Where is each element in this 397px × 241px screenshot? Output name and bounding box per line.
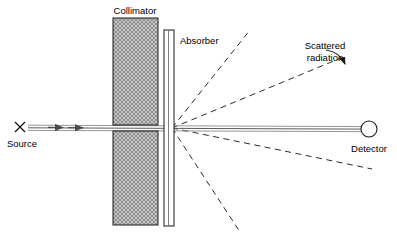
source-label: Source: [7, 138, 37, 149]
diagram-canvas: Collimator Absorber Scattered radiation …: [0, 0, 397, 241]
absorber-label: Absorber: [180, 35, 219, 46]
detector: [361, 121, 377, 137]
collimator-upper-block: [113, 18, 158, 125]
detector-circle: [361, 121, 377, 137]
absorber-plate: [164, 30, 174, 226]
detector-label: Detector: [351, 143, 387, 154]
collimator: [113, 18, 158, 225]
absorber: [164, 30, 174, 226]
scattered-radiation-label-line1: Scattered: [305, 40, 346, 51]
collimator-lower-block: [113, 131, 158, 225]
collimator-label: Collimator: [114, 5, 157, 16]
scattering-diagram: Collimator Absorber Scattered radiation …: [0, 0, 397, 241]
scattered-radiation-label-line2: radiation: [307, 52, 343, 63]
